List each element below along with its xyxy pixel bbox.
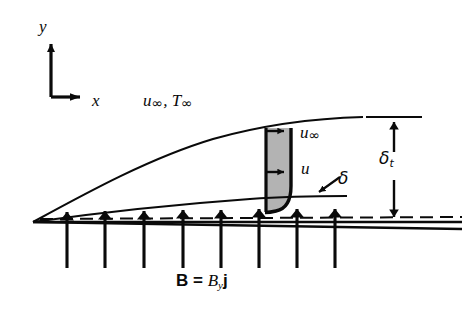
mhd-boundary-layer-figure: y x u∞, T∞ u∞ u δ δt B = Byj (0, 0, 465, 316)
free-stream-T-subscript: ∞ (181, 95, 193, 111)
free-stream-T-symbol: T (172, 91, 181, 110)
profile-local-velocity-label: u (301, 160, 310, 177)
delta-leader-arrow (319, 177, 340, 192)
x-axis-label: x (92, 92, 100, 109)
free-stream-u-symbol: u (143, 91, 152, 110)
b-vector-symbol: B (176, 271, 188, 290)
free-stream-separator: , (163, 91, 172, 110)
flat-plate (33, 217, 462, 229)
profile-u-symbol: u (300, 123, 309, 142)
j-unit-vector-symbol: j (223, 271, 228, 290)
diagram-canvas (0, 0, 465, 316)
y-axis-label: y (39, 18, 47, 35)
plate-centerline (40, 217, 462, 219)
delta-t-dimension (366, 117, 422, 217)
coordinate-axes (51, 44, 80, 97)
delta-symbol: δ (379, 148, 389, 168)
free-stream-conditions-label: u∞, T∞ (143, 92, 193, 111)
profile-free-stream-velocity-label: u∞ (300, 124, 320, 143)
profile-u-subscript: ∞ (309, 127, 321, 143)
magnetic-field-equation-label: B = Byj (176, 272, 228, 291)
equals-sign: = (188, 271, 207, 290)
velocity-boundary-layer-label: δ (338, 170, 348, 187)
delta-subscript-t: t (389, 157, 393, 170)
free-stream-u-subscript: ∞ (152, 95, 164, 111)
thermal-boundary-layer-label: δt (379, 150, 394, 170)
b-component-symbol: B (208, 271, 218, 290)
